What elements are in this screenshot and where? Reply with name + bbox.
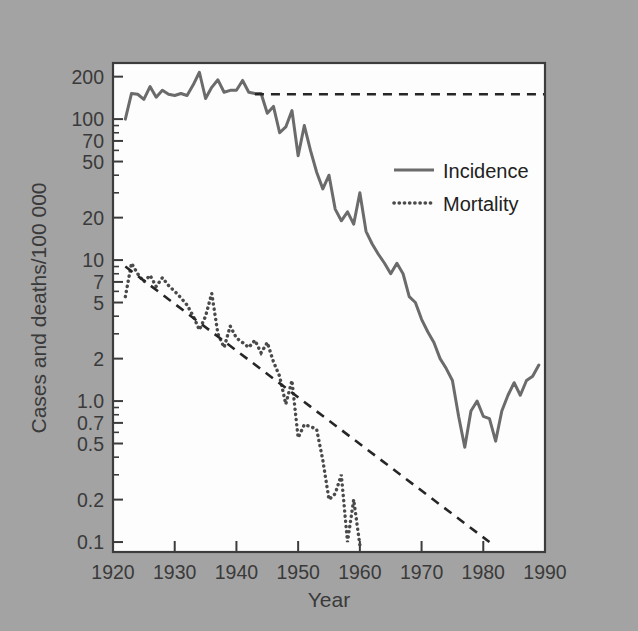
- x-tick-label-1970: 1970: [400, 561, 444, 583]
- y-tick-label-0.7: 0.7: [77, 412, 104, 434]
- y-tick-label-20: 20: [82, 207, 104, 229]
- y-tick-label-1.0: 1.0: [77, 390, 104, 412]
- y-tick-label-7: 7: [93, 271, 104, 293]
- legend-label-mortality: Mortality: [443, 193, 519, 215]
- y-tick-label-70: 70: [82, 130, 104, 152]
- y-tick-label-200: 200: [71, 66, 104, 88]
- x-tick-label-1930: 1930: [153, 561, 197, 583]
- y-tick-label-5: 5: [93, 292, 104, 314]
- x-tick-label-1980: 1980: [462, 561, 506, 583]
- y-tick-label-100: 100: [71, 108, 104, 130]
- x-tick-label-1960: 1960: [338, 561, 382, 583]
- y-tick-label-10: 10: [82, 249, 104, 271]
- y-tick-label-50: 50: [82, 151, 104, 173]
- x-tick-label-1920: 1920: [91, 561, 135, 583]
- x-axis-title: Year: [308, 588, 350, 611]
- y-tick-label-0.2: 0.2: [77, 489, 104, 511]
- y-axis-title: Cases and deaths/100 000: [27, 182, 50, 433]
- legend-label-incidence: Incidence: [443, 160, 529, 182]
- y-tick-label-0.1: 0.1: [77, 531, 104, 553]
- x-tick-label-1950: 1950: [276, 561, 320, 583]
- y-tick-label-2: 2: [93, 348, 104, 370]
- y-tick-label-0.5: 0.5: [77, 433, 104, 455]
- x-tick-label-1940: 1940: [215, 561, 259, 583]
- chart-figure: 200100705020107521.00.70.50.20.1 1920193…: [0, 0, 638, 631]
- x-tick-label-1990: 1990: [523, 561, 567, 583]
